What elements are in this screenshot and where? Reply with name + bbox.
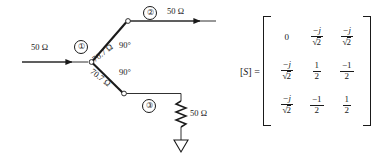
- matrix-cell-denominator: 2: [347, 37, 352, 47]
- matrix-cell-denominator: 2: [313, 72, 322, 82]
- input-impedance-label: 50 Ω: [31, 43, 48, 52]
- matrix-cell-2-2: 1 2: [343, 95, 352, 115]
- port2-number: ②: [143, 6, 157, 20]
- matrix-cell-0-2: −j √2: [341, 26, 354, 47]
- matrix-cell-denominator: 2: [340, 72, 354, 82]
- matrix-cells: 0 −j √2 −j √2 −j √2: [271, 18, 363, 124]
- matrix-label: [S] =: [240, 66, 260, 77]
- upper-branch-length-label: 90°: [119, 41, 131, 50]
- port2-node: [126, 19, 131, 24]
- matrix-cell-denominator: 2: [310, 106, 324, 116]
- matrix-cell-numerator: 1: [313, 61, 322, 72]
- figure-canvas: 50 Ω ① ② ③ 70.7 Ω 70.7 Ω 90° 90° 50 Ω 50…: [0, 0, 372, 164]
- matrix-cell-denominator: 2: [343, 106, 352, 116]
- matrix-cell-1-2: −1 2: [340, 61, 354, 81]
- matrix-cell-numerator: −j: [311, 26, 324, 37]
- zigzag-resistor-icon: [176, 101, 186, 127]
- ground-triangle-icon: [174, 140, 188, 152]
- matrix-cell-numerator: −1: [310, 95, 324, 106]
- matrix-cell-numerator: −j: [341, 26, 354, 37]
- matrix-cell-denominator: 2: [317, 37, 322, 47]
- port3-number: ③: [142, 99, 156, 113]
- matrix-label-close: ]: [248, 66, 251, 77]
- port1-number: ①: [74, 40, 88, 54]
- matrix-cell-0-1: −j √2: [311, 26, 324, 47]
- matrix-cell-1-1: 1 2: [313, 61, 322, 81]
- port3-node: [122, 91, 127, 96]
- matrix-cell-denominator: 2: [287, 71, 292, 81]
- matrix-cell-1-0: −j √2: [281, 60, 294, 81]
- matrix-cell-numerator: −j: [281, 94, 294, 105]
- matrix-right-bracket: [363, 16, 371, 126]
- matrix-cell-numerator: 1: [343, 95, 352, 106]
- matrix-cell-numerator: −1: [340, 61, 354, 72]
- matrix-cell-2-0: −j √2: [281, 94, 294, 115]
- s-parameter-matrix: [S] = 0 −j √2 −j √2: [240, 16, 371, 126]
- matrix-left-bracket: [263, 16, 271, 126]
- matrix-cell-denominator: 2: [287, 105, 292, 115]
- matrix-cell-numerator: −j: [281, 60, 294, 71]
- matrix-cell-value: 0: [285, 32, 290, 42]
- lower-branch-length-label: 90°: [119, 68, 131, 77]
- matrix-equals: =: [254, 66, 260, 77]
- port3-termination-impedance-label: 50 Ω: [190, 109, 207, 118]
- matrix-cell-0-0: 0: [285, 32, 290, 42]
- port2-output-impedance-label: 50 Ω: [167, 7, 184, 16]
- matrix-cell-2-1: −1 2: [310, 95, 324, 115]
